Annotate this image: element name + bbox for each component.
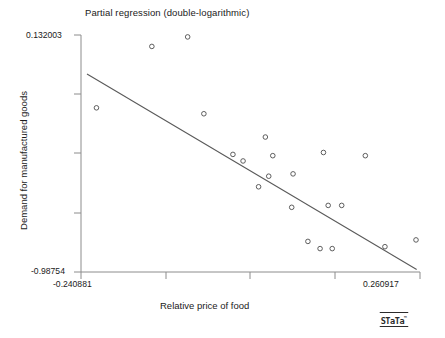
x-axis-ticks — [81, 272, 420, 279]
data-point — [306, 239, 311, 244]
data-point — [318, 246, 323, 251]
y-axis-title: Demand for manufactured goods — [18, 56, 29, 266]
stata-logo-text: STaTa — [381, 316, 404, 326]
y-axis-ticks — [74, 35, 81, 272]
axis-group — [74, 35, 420, 279]
data-point — [266, 174, 271, 179]
x-axis-tick-label-max: 0.260917 — [363, 279, 399, 289]
stata-logo: STaTa™ — [380, 312, 408, 327]
chart-title: Partial regression (double-logarithmic) — [85, 7, 249, 18]
stata-chart-figure: Partial regression (double-logarithmic) … — [0, 0, 445, 338]
data-point — [339, 203, 344, 208]
data-point — [241, 159, 246, 164]
data-point — [94, 106, 99, 111]
y-axis-tick-label-max: 0.132003 — [26, 30, 62, 40]
data-point — [414, 238, 419, 243]
data-point — [289, 205, 294, 210]
y-axis-tick-label-min: -0.98754 — [31, 266, 65, 276]
data-point — [256, 184, 261, 189]
data-point — [330, 246, 335, 251]
x-axis-tick-label-min: -0.240881 — [53, 279, 92, 289]
data-point — [231, 152, 236, 157]
data-point — [321, 150, 326, 155]
x-axis-title: Relative price of food — [160, 300, 249, 311]
data-point — [291, 172, 296, 177]
data-point — [263, 135, 268, 140]
trademark-symbol: ™ — [404, 315, 407, 321]
data-point — [185, 35, 190, 40]
data-point — [383, 244, 388, 249]
data-point — [326, 203, 331, 208]
data-point — [150, 44, 155, 49]
data-point — [202, 111, 207, 116]
data-point — [363, 153, 368, 158]
regression-fit-line — [87, 74, 417, 270]
scatter-series — [94, 35, 418, 251]
data-point — [270, 153, 275, 158]
